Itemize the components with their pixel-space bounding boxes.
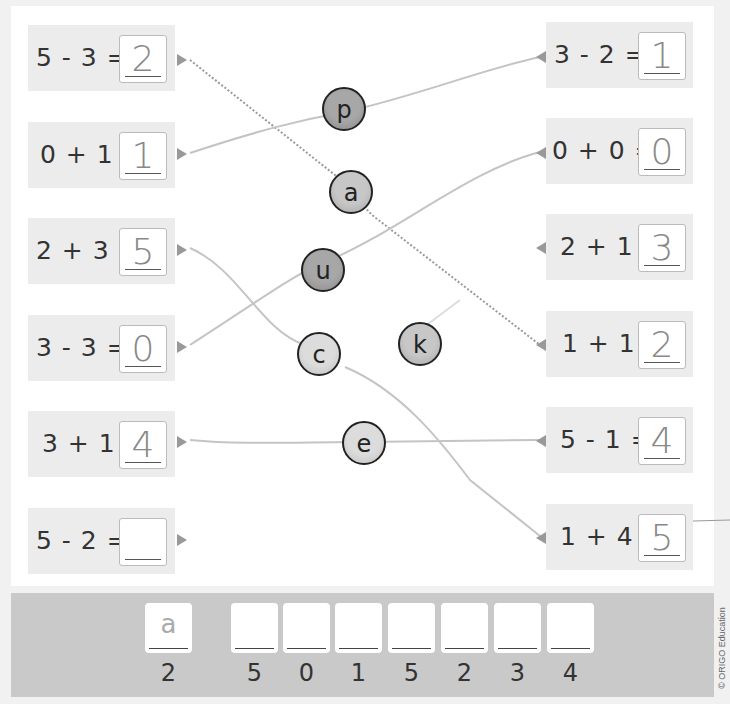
right-equation-2: 0 + 0 = 0 (546, 118, 693, 184)
left-equation-3: 2 + 3 = 5 (28, 218, 175, 284)
slot-letter: a (145, 609, 192, 639)
slot-code: 4 (547, 659, 594, 687)
answer-box[interactable]: 4 (638, 417, 686, 465)
arrow-left-icon[interactable] (536, 51, 546, 63)
answer-box[interactable]: 5 (638, 514, 686, 562)
decoder-slot[interactable] (335, 603, 382, 653)
slot-code: 5 (388, 659, 435, 687)
copyright-notice: © ORIGO Education (714, 600, 730, 695)
left-equation-2: 0 + 1 = 1 (28, 122, 175, 188)
copyright-text: © ORIGO Education (717, 607, 727, 689)
slot-code: 0 (283, 659, 330, 687)
answer-box[interactable]: 1 (119, 132, 167, 180)
handwritten-answer: 0 (639, 129, 685, 175)
left-equation-1: 5 - 3 = 2 (28, 25, 175, 91)
arrow-right-icon[interactable] (177, 148, 187, 160)
answer-box[interactable]: 0 (119, 325, 167, 373)
arrow-right-icon[interactable] (177, 436, 187, 448)
decoder-slot[interactable] (388, 603, 435, 653)
handwritten-answer: 1 (639, 33, 685, 79)
handwritten-answer: 2 (639, 322, 685, 368)
decoder-slot[interactable] (231, 603, 278, 653)
answer-box[interactable]: 2 (638, 321, 686, 369)
slot-code: 1 (335, 659, 382, 687)
handwritten-answer: 0 (120, 326, 166, 372)
handwritten-answer: 2 (120, 36, 166, 82)
arrow-right-icon[interactable] (177, 341, 187, 353)
handwritten-answer: 4 (639, 418, 685, 464)
right-equation-1: 3 - 2 = 1 (546, 22, 693, 88)
arrow-left-icon[interactable] (536, 532, 546, 544)
slot-code: 5 (231, 659, 278, 687)
left-equation-5: 3 + 1 = 4 (28, 411, 175, 477)
slot-code: 2 (441, 659, 488, 687)
answer-box[interactable]: 0 (638, 128, 686, 176)
arrow-left-icon[interactable] (536, 147, 546, 159)
slot-code: 3 (494, 659, 541, 687)
handwritten-answer: 1 (120, 133, 166, 179)
letter-ball-u[interactable]: u (301, 248, 345, 292)
handwritten-answer: 3 (639, 225, 685, 271)
decoder-slot[interactable]: a (145, 603, 192, 653)
answer-box[interactable]: 2 (119, 35, 167, 83)
arrow-right-icon[interactable] (177, 534, 187, 546)
letter-ball-e[interactable]: e (342, 421, 386, 465)
answer-box[interactable] (119, 518, 167, 566)
arrow-left-icon[interactable] (536, 435, 546, 447)
answer-box[interactable]: 5 (119, 228, 167, 276)
decoder-band: a 2 5 0 1 5 2 3 4 (11, 593, 714, 697)
slot-code: 2 (145, 659, 192, 687)
letter-ball-k[interactable]: k (398, 322, 442, 366)
equation-text: 3 - 2 = (554, 22, 647, 88)
equation-text: 5 - 2 = (36, 508, 129, 574)
decoder-slot[interactable] (494, 603, 541, 653)
equation-text: 5 - 3 = (36, 25, 129, 91)
letter-ball-a[interactable]: a (329, 170, 373, 214)
decoder-slot[interactable] (441, 603, 488, 653)
decoder-slot[interactable] (547, 603, 594, 653)
right-equation-6: 1 + 4 = 5 (546, 504, 693, 570)
letter-ball-c[interactable]: c (297, 332, 341, 376)
decoder-slot[interactable] (283, 603, 330, 653)
left-equation-4: 3 - 3 = 0 (28, 315, 175, 381)
arrow-left-icon[interactable] (536, 242, 546, 254)
equation-text: 3 - 3 = (36, 315, 129, 381)
arrow-left-icon[interactable] (536, 339, 546, 351)
left-equation-6: 5 - 2 = (28, 508, 175, 574)
answer-box[interactable]: 1 (638, 32, 686, 80)
letter-ball-p[interactable]: p (322, 87, 366, 131)
answer-box[interactable]: 3 (638, 224, 686, 272)
handwritten-answer: 5 (639, 515, 685, 561)
arrow-right-icon[interactable] (177, 244, 187, 256)
handwritten-answer: 5 (120, 229, 166, 275)
arrow-right-icon[interactable] (177, 54, 187, 66)
right-equation-5: 5 - 1 = 4 (546, 407, 693, 473)
right-equation-3: 2 + 1 = 3 (546, 214, 693, 280)
handwritten-answer: 4 (120, 422, 166, 468)
right-equation-4: 1 + 1 = 2 (546, 311, 693, 377)
answer-box[interactable]: 4 (119, 421, 167, 469)
